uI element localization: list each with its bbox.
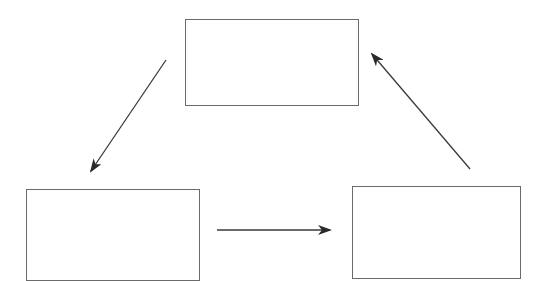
arrow-bottom-right-to-top — [372, 54, 470, 169]
node-bottom-left — [27, 190, 200, 281]
arrow-top-to-bottom-left — [91, 60, 166, 171]
cycle-diagram — [0, 0, 547, 281]
node-bottom-right — [353, 187, 521, 279]
node-top — [186, 20, 359, 106]
